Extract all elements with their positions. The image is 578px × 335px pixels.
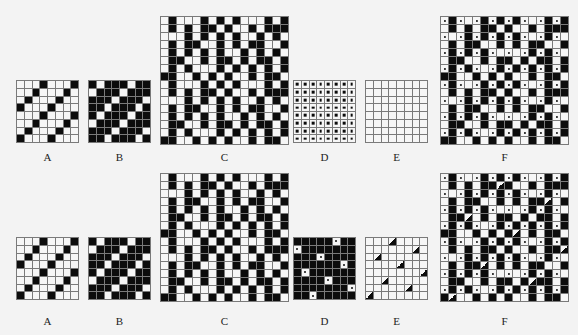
- black-cell: [281, 286, 288, 293]
- triangle-cell: [449, 294, 456, 301]
- white-cell: [17, 285, 24, 292]
- black-cell: [25, 285, 32, 292]
- black-cell: [341, 254, 348, 261]
- white-cell: [64, 292, 71, 299]
- white-cell: [177, 129, 184, 136]
- dot-cell: [310, 81, 317, 88]
- black-cell: [465, 262, 472, 269]
- white-cell: [545, 105, 552, 112]
- black-cell: [40, 269, 47, 276]
- white-cell: [281, 113, 288, 120]
- black-cell: [112, 269, 119, 276]
- panel-label: B: [110, 151, 130, 163]
- white-cell: [273, 262, 280, 269]
- black-cell: [457, 214, 464, 221]
- black-cell: [545, 214, 552, 221]
- black-cell: [25, 97, 32, 104]
- white-cell: [201, 230, 208, 237]
- white-cell: [177, 33, 184, 40]
- white-cell: [457, 73, 464, 80]
- black-cell: [209, 89, 216, 96]
- black-cell: [249, 41, 256, 48]
- white-cell: [120, 246, 127, 253]
- black-cell: [97, 254, 104, 261]
- black-cell: [465, 49, 472, 56]
- white-cell: [265, 198, 272, 205]
- black-cell: [449, 41, 456, 48]
- white-cell: [553, 262, 560, 269]
- white-cell: [193, 238, 200, 245]
- white-cell: [241, 182, 248, 189]
- black-cell: [281, 262, 288, 269]
- white-cell: [420, 254, 427, 261]
- black-cell: [529, 286, 536, 293]
- white-cell: [71, 261, 78, 268]
- black-cell: [465, 89, 472, 96]
- black-cell: [128, 135, 135, 142]
- black-cell: [545, 121, 552, 128]
- white-cell: [241, 230, 248, 237]
- white-cell: [161, 41, 168, 48]
- white-cell: [169, 33, 176, 40]
- black-cell: [143, 238, 150, 245]
- black-cell: [561, 214, 568, 221]
- black-cell: [273, 294, 280, 301]
- black-cell: [265, 73, 272, 80]
- black-cell: [561, 81, 568, 88]
- black-cell: [241, 57, 248, 64]
- black-cell: [185, 105, 192, 112]
- black-cell: [302, 285, 309, 292]
- black-cell: [333, 277, 340, 284]
- white-cell: [201, 73, 208, 80]
- black-cell: [128, 89, 135, 96]
- white-cell: [25, 120, 32, 127]
- white-cell: [497, 206, 504, 213]
- white-cell: [413, 97, 420, 104]
- white-cell: [449, 97, 456, 104]
- white-cell: [561, 270, 568, 277]
- black-cell: [185, 206, 192, 213]
- white-cell: [209, 65, 216, 72]
- panel-label: E: [387, 151, 407, 163]
- black-cell: [112, 89, 119, 96]
- dot-cell: [489, 286, 496, 293]
- black-cell: [545, 294, 552, 301]
- white-cell: [249, 270, 256, 277]
- white-cell: [561, 49, 568, 56]
- black-cell: [505, 25, 512, 32]
- white-cell: [17, 97, 24, 104]
- white-cell: [233, 73, 240, 80]
- black-cell: [265, 246, 272, 253]
- white-cell: [413, 292, 420, 299]
- black-cell: [169, 214, 176, 221]
- black-cell: [465, 270, 472, 277]
- black-cell: [449, 73, 456, 80]
- white-cell: [561, 33, 568, 40]
- dot-cell: [457, 174, 464, 181]
- white-cell: [413, 254, 420, 261]
- black-cell: [505, 294, 512, 301]
- black-cell: [529, 41, 536, 48]
- white-cell: [553, 57, 560, 64]
- white-cell: [449, 254, 456, 261]
- black-cell: [341, 277, 348, 284]
- white-cell: [257, 286, 264, 293]
- white-cell: [489, 121, 496, 128]
- black-cell: [112, 120, 119, 127]
- dot-cell: [489, 270, 496, 277]
- white-cell: [185, 278, 192, 285]
- white-cell: [112, 128, 119, 135]
- black-cell: [561, 89, 568, 96]
- black-cell: [185, 254, 192, 261]
- white-cell: [366, 112, 373, 119]
- black-cell: [545, 206, 552, 213]
- white-cell: [40, 277, 47, 284]
- triangle-cell: [513, 230, 520, 237]
- black-cell: [317, 285, 324, 292]
- white-cell: [521, 25, 528, 32]
- black-cell: [217, 238, 224, 245]
- black-cell: [143, 246, 150, 253]
- black-cell: [201, 182, 208, 189]
- black-cell: [513, 286, 520, 293]
- dot-cell: [553, 190, 560, 197]
